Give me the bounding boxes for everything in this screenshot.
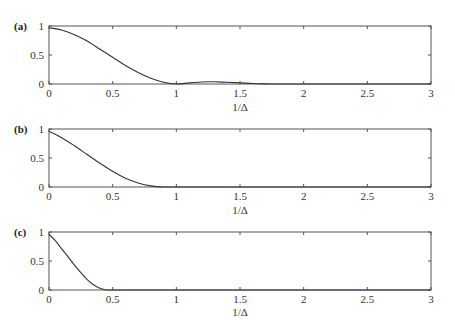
panel-b: (b) 1/Δ 00.511.522.5300.51 [14,123,434,216]
y-tick-label: 0 [39,284,45,296]
plot-frame [49,26,431,84]
x-axis-label: 1/Δ [232,101,248,113]
plot-frame [49,129,431,187]
panel-a: (a) 1/Δ 00.511.522.5300.51 [14,20,434,113]
series-line-b [49,131,431,187]
x-tick-label: 0.5 [106,190,120,202]
series-line-c [49,234,431,290]
x-tick-label: 1 [174,87,180,99]
panel-label: (a) [14,20,27,33]
y-tick-label: 1 [39,20,45,32]
y-tick-label: 0.5 [30,152,44,164]
x-tick-label: 1 [174,293,180,305]
x-tick-label: 2.5 [360,190,374,202]
panel-c: (c) 1/Δ 00.511.522.5300.51 [14,226,434,318]
y-tick-label: 1 [39,123,45,135]
x-tick-label: 3 [428,87,434,99]
chart-figure: (a) 1/Δ 00.511.522.5300.51 (b) 1/Δ 00.51… [0,0,455,329]
y-tick-label: 0 [39,78,45,90]
x-tick-label: 1.5 [233,87,247,99]
x-tick-label: 2 [301,190,307,202]
y-tick-label: 0.5 [30,49,44,61]
x-tick-label: 0 [46,293,52,305]
x-tick-label: 3 [428,190,434,202]
panel-label: (c) [14,226,27,239]
x-tick-label: 1.5 [233,190,247,202]
y-tick-label: 0.5 [30,255,44,267]
y-tick-label: 0 [39,181,45,193]
x-tick-label: 0.5 [106,293,120,305]
x-tick-label: 0.5 [106,87,120,99]
x-axis-label: 1/Δ [232,204,248,216]
y-tick-label: 1 [39,226,45,238]
x-tick-label: 1 [174,190,180,202]
x-tick-label: 0 [46,190,52,202]
plot-frame [49,232,431,290]
x-axis-label: 1/Δ [232,306,248,318]
x-tick-label: 2.5 [360,293,374,305]
x-tick-label: 1.5 [233,293,247,305]
panel-label: (b) [14,123,28,136]
x-tick-label: 3 [428,293,434,305]
series-line-a [49,28,431,84]
x-tick-label: 2 [301,293,307,305]
x-tick-label: 2.5 [360,87,374,99]
x-tick-label: 0 [46,87,52,99]
x-tick-label: 2 [301,87,307,99]
